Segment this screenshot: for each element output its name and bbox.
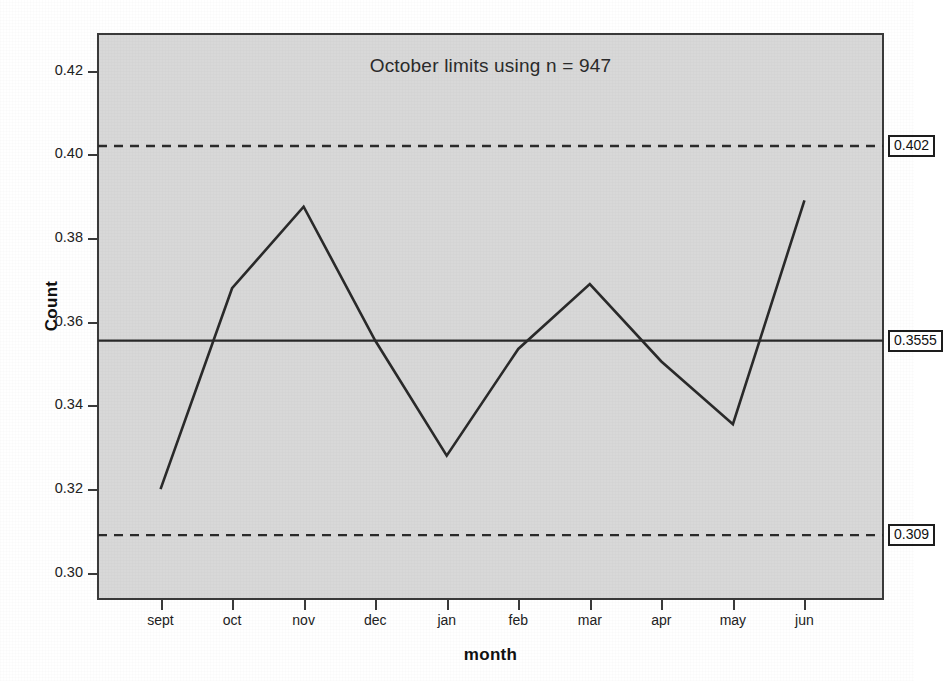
center-line-label: 0.3555	[888, 330, 943, 352]
data-series-line	[161, 200, 805, 489]
lower-control-limit-label: 0.309	[888, 524, 935, 546]
upper-control-limit-label: 0.402	[888, 135, 935, 157]
